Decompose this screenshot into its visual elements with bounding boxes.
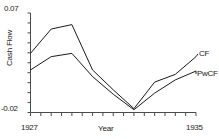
x-axis-title: Year: [98, 125, 113, 133]
y-axis-title: Cash Flow: [6, 21, 14, 75]
y-axis-bottom-tick-label: -0.02: [1, 105, 18, 113]
series-line-pwcf: [31, 53, 197, 109]
x-axis-left-tick-label: 1927: [21, 124, 38, 132]
chart-figure: 0.07 -0.02 Cash Flow 1927 1935 Year CF P…: [0, 0, 219, 139]
series-line-cf: [31, 25, 197, 109]
series-label-cf: CF: [199, 50, 209, 58]
x-axis-right-tick-label: 1935: [186, 124, 203, 132]
x-axis-ticks: [31, 113, 197, 117]
data-series-lines: [31, 25, 197, 110]
y-axis-top-tick-label: 0.07: [4, 5, 18, 13]
chart-plot-area: [0, 0, 219, 139]
series-label-pwcf: PwCF: [197, 70, 218, 78]
leader-line-cf: [196, 54, 198, 57]
